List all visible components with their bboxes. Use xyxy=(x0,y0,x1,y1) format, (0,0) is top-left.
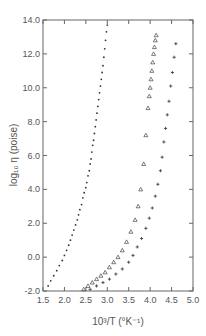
dot-marker xyxy=(100,85,102,87)
triangle-marker xyxy=(133,218,137,222)
triangle-marker xyxy=(116,255,120,259)
triangle-marker xyxy=(125,240,129,244)
y-tick-label: 12.0 xyxy=(22,49,40,59)
triangle-marker xyxy=(95,277,99,281)
y-tick-label: 0.0 xyxy=(27,252,40,262)
dot-marker xyxy=(101,72,103,74)
y-tick-label: 8.0 xyxy=(27,117,40,127)
y-tick-label: 4.0 xyxy=(27,184,40,194)
plus-marker xyxy=(156,183,159,186)
dot-marker xyxy=(71,234,73,236)
dot-marker xyxy=(99,92,101,94)
viscosity-chart: 1.52.02.53.03.54.04.55.0-2.00.02.04.06.0… xyxy=(0,0,206,336)
triangle-marker xyxy=(154,33,158,37)
plus-marker xyxy=(162,140,165,143)
plus-marker xyxy=(161,156,164,159)
dot-marker xyxy=(92,144,94,146)
dot-marker xyxy=(85,187,87,189)
plus-marker xyxy=(140,237,143,240)
dot-marker xyxy=(81,204,83,206)
dot-marker xyxy=(70,239,72,241)
dot-marker xyxy=(94,133,96,135)
dot-marker xyxy=(105,39,107,41)
triangle-marker xyxy=(151,60,155,64)
dot-marker xyxy=(86,182,88,184)
plot-frame xyxy=(43,20,193,291)
dot-marker xyxy=(56,270,58,272)
dot-marker xyxy=(58,265,60,267)
x-axis-label: 10³/T (°K⁻¹) xyxy=(92,316,144,327)
dot-marker xyxy=(93,139,95,141)
plus-marker xyxy=(108,278,111,281)
triangle-marker xyxy=(149,77,153,81)
y-axis-label: log₁₀ η (poise) xyxy=(8,124,19,187)
dot-marker xyxy=(68,244,70,246)
plus-marker xyxy=(159,169,162,172)
dot-marker xyxy=(50,280,52,282)
x-tick-label: 2.0 xyxy=(58,295,71,305)
dot-marker xyxy=(78,214,80,216)
triangle-marker xyxy=(82,287,86,291)
plus-marker xyxy=(114,272,117,275)
dot-marker xyxy=(75,224,77,226)
dot-marker xyxy=(87,175,89,177)
dot-marker xyxy=(94,126,96,128)
dot-marker xyxy=(106,31,108,33)
dot-marker xyxy=(89,163,91,165)
triangle-marker xyxy=(150,69,154,73)
data-points xyxy=(47,24,177,291)
dot-marker xyxy=(73,229,75,231)
plus-marker xyxy=(173,56,176,59)
y-tick-label: -2.0 xyxy=(24,286,40,296)
triangle-marker xyxy=(120,248,124,252)
plus-marker xyxy=(169,84,172,87)
dot-marker xyxy=(64,255,66,257)
dot-marker xyxy=(103,56,105,58)
triangle-marker xyxy=(152,45,156,49)
y-tick-label: 6.0 xyxy=(27,151,40,161)
triangle-marker xyxy=(153,38,157,42)
y-tick-label: 14.0 xyxy=(22,15,40,25)
plus-marker xyxy=(154,195,157,198)
dot-marker xyxy=(82,197,84,199)
plus-marker xyxy=(95,284,98,287)
triangle-marker xyxy=(142,162,146,166)
dot-marker xyxy=(53,275,55,277)
plus-marker xyxy=(131,254,134,257)
dot-marker xyxy=(79,209,81,211)
triangle-marker xyxy=(152,52,156,56)
triangle-marker xyxy=(129,230,133,234)
plus-marker xyxy=(136,245,139,248)
x-tick-label: 3.0 xyxy=(101,295,114,305)
triangle-marker xyxy=(107,265,111,269)
triangle-marker xyxy=(90,281,94,285)
plus-marker xyxy=(101,281,104,284)
dot-marker xyxy=(88,170,90,172)
dot-marker xyxy=(102,65,104,67)
plus-marker xyxy=(164,127,167,130)
triangle-marker xyxy=(99,274,103,278)
triangle-marker xyxy=(144,133,148,137)
series-triangles xyxy=(82,33,158,291)
plot-axes: 1.52.02.53.03.54.04.55.0-2.00.02.04.06.0… xyxy=(22,15,199,305)
triangle-marker xyxy=(148,86,152,90)
x-tick-label: 3.5 xyxy=(122,295,135,305)
dot-marker xyxy=(97,105,99,107)
dot-marker xyxy=(91,151,93,153)
dot-marker xyxy=(47,285,49,287)
dot-marker xyxy=(98,99,100,101)
plus-marker xyxy=(151,206,154,209)
plus-marker xyxy=(174,42,177,45)
x-tick-label: 1.5 xyxy=(37,295,50,305)
dot-marker xyxy=(76,219,78,221)
y-tick-label: 10.0 xyxy=(22,83,40,93)
dot-marker xyxy=(66,249,68,251)
plus-marker xyxy=(144,227,147,230)
triangle-marker xyxy=(103,270,107,274)
dot-marker xyxy=(83,192,85,194)
triangle-marker xyxy=(139,187,143,191)
plus-marker xyxy=(166,113,169,116)
dot-marker xyxy=(104,48,106,50)
dot-marker xyxy=(90,158,92,160)
plus-marker xyxy=(167,100,170,103)
